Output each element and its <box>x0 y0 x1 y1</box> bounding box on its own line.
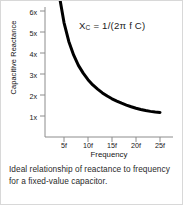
y-tick-label-5x: 5x <box>19 29 37 38</box>
y-tick-label-4x: 4x <box>19 50 37 59</box>
formula-variable: X <box>79 20 86 31</box>
reactance-curve <box>60 1 160 112</box>
y-tick-label-2x: 2x <box>19 92 37 101</box>
formula-expression: = 1/(2π f C) <box>91 20 146 31</box>
x-tick-label-20f: 20f <box>125 141 147 150</box>
x-tick-label-25f: 25f <box>149 141 171 150</box>
figure-container: Capacitive Reactance 6x 5x 4x 3x 2x 1x 5… <box>0 0 183 205</box>
y-axis-title: Capacitive Reactance <box>9 12 18 104</box>
x-tick-label-15f: 15f <box>101 141 123 150</box>
x-tick-label-10f: 10f <box>77 141 99 150</box>
y-tick-label-6x: 6x <box>19 8 37 17</box>
formula-annotation: XC = 1/(2π f C) <box>79 20 145 31</box>
x-tick-label-5f: 5f <box>53 141 75 150</box>
x-axis-title: Frequency <box>44 150 174 159</box>
y-tick-label-3x: 3x <box>19 71 37 80</box>
figure-caption: Ideal relationship of reactance to frequ… <box>9 164 177 187</box>
y-tick-marks <box>40 11 45 116</box>
chart-plot-area: Capacitive Reactance 6x 5x 4x 3x 2x 1x 5… <box>1 1 183 161</box>
y-tick-label-1x: 1x <box>19 113 37 122</box>
